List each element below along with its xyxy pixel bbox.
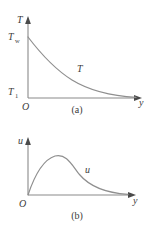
chart-panel-b: u y O u (b) — [0, 115, 155, 236]
panel-a-tick-tw-base: T — [8, 31, 15, 42]
panel-a-tick-tw-subscript: w — [15, 37, 20, 44]
panel-b-y-axis-arrow-icon — [25, 137, 31, 145]
panel-b-curve-label: u — [85, 164, 90, 175]
panel-a-origin-label: O — [22, 101, 29, 112]
panel-a-caption: (a) — [71, 104, 82, 115]
chart-panel-a: T y O T w T 1 T (a) — [0, 0, 155, 115]
panel-a-tick-t1-subscript: 1 — [15, 92, 18, 99]
panel-b-x-axis-label: y — [132, 195, 138, 206]
figure-container: T y O T w T 1 T (a) u y O u (b) — [0, 0, 155, 236]
panel-b-caption: (b) — [71, 210, 83, 222]
panel-b-y-axis-label: u — [18, 135, 23, 146]
panel-a-y-axis-label: T — [17, 14, 24, 25]
panel-b-origin-label: O — [19, 198, 26, 209]
panel-a-curve-label: T — [77, 63, 84, 74]
panel-a-x-axis-label: y — [138, 97, 144, 108]
panel-a-tick-t1-base: T — [8, 86, 15, 97]
panel-a-y-axis-arrow-icon — [25, 16, 31, 24]
panel-b-velocity-curve — [28, 156, 128, 195]
